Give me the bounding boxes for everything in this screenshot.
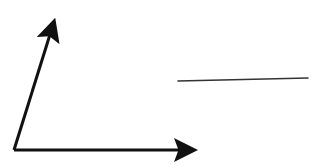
vector-diagram [0,0,317,166]
floating-line-segment [178,78,308,81]
slanted-vector-arrow [14,26,53,150]
